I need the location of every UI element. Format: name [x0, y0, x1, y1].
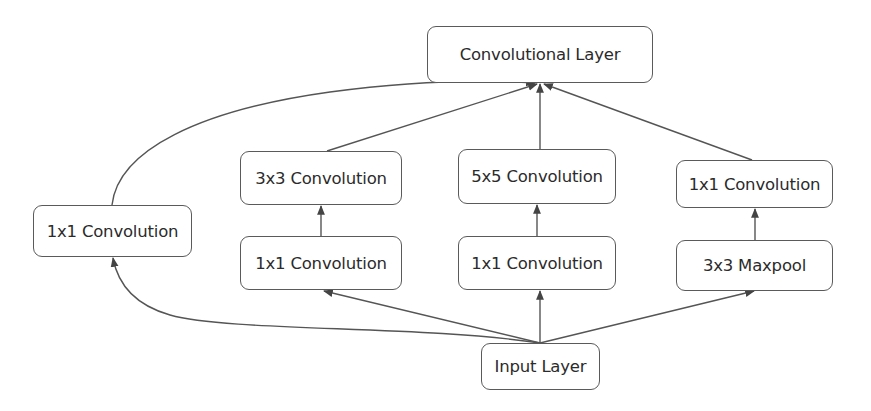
inception-module-diagram: Convolutional Layer 1x1 Convolution 3x3 … — [0, 0, 871, 411]
edge-input-to-branch2 — [324, 291, 540, 343]
node-label: 5x5 Convolution — [471, 167, 603, 186]
branch4-maxpool-node: 3x3 Maxpool — [676, 240, 833, 291]
node-label: 1x1 Convolution — [255, 254, 387, 273]
node-label: 1x1 Convolution — [689, 175, 821, 194]
edge-branch2-to-output — [327, 84, 537, 151]
branch3-conv1x1-node: 1x1 Convolution — [458, 236, 616, 290]
branch2-conv1x1-node: 1x1 Convolution — [240, 236, 402, 290]
node-label: Convolutional Layer — [460, 45, 621, 64]
branch4-conv1x1-node: 1x1 Convolution — [676, 160, 833, 208]
node-label: 3x3 Convolution — [255, 169, 387, 188]
branch1-conv1x1-node: 1x1 Convolution — [33, 205, 192, 257]
node-label: Input Layer — [495, 357, 587, 376]
node-label: 1x1 Convolution — [471, 254, 603, 273]
node-label: 1x1 Convolution — [47, 222, 179, 241]
branch2-conv3x3-node: 3x3 Convolution — [240, 151, 402, 205]
edge-input-to-maxpool — [540, 291, 754, 343]
branch3-conv5x5-node: 5x5 Convolution — [458, 149, 616, 204]
input-layer-node: Input Layer — [481, 343, 600, 390]
output-convolutional-layer-node: Convolutional Layer — [427, 26, 653, 83]
node-label: 3x3 Maxpool — [703, 256, 806, 275]
